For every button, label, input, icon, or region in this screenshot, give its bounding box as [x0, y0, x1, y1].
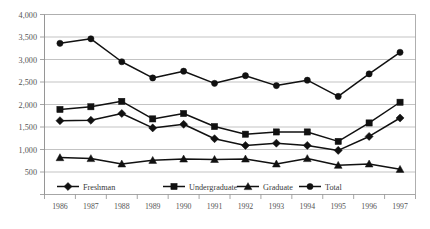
- data-point-total-1996: [366, 71, 372, 77]
- data-point-total-1990: [181, 68, 187, 74]
- legend-marker-circle: [307, 183, 313, 189]
- x-tick-label: 1995: [330, 202, 346, 211]
- y-tick-label: 1,500: [19, 123, 37, 132]
- data-point-undergraduate-1994: [304, 129, 310, 135]
- data-point-total-1997: [397, 49, 403, 55]
- data-point-undergraduate-1987: [88, 104, 94, 110]
- data-point-total-1993: [273, 83, 279, 89]
- chart-canvas: 5001,0001,5002,0002,5003,0003,5004,000 1…: [0, 0, 430, 229]
- series-total: [57, 36, 403, 100]
- x-tick-label: 1996: [361, 202, 377, 211]
- y-tick-label: 2,500: [19, 78, 37, 87]
- series-line-total: [60, 39, 400, 97]
- data-point-freshman-1988: [118, 109, 126, 117]
- series-line-freshman: [60, 114, 400, 151]
- x-axis-tick-labels: 1986198719881989199019911992199319941995…: [52, 202, 408, 211]
- x-tick-label: 1997: [392, 202, 408, 211]
- data-point-total-1995: [335, 93, 341, 99]
- data-point-total-1994: [304, 77, 310, 83]
- series-line-undergraduate: [60, 101, 400, 141]
- data-point-undergraduate-1988: [119, 98, 125, 104]
- chart-legend: FreshmanUndergraduateGraduateTotal: [57, 182, 342, 191]
- y-tick-label: 1,000: [19, 146, 37, 155]
- y-tick-label: 4,000: [19, 11, 37, 20]
- legend-item-undergraduate[interactable]: Undergraduate: [163, 183, 238, 192]
- data-point-total-1992: [242, 73, 248, 79]
- y-tick-label: 2,000: [19, 101, 37, 110]
- data-point-freshman-1992: [241, 141, 249, 149]
- data-point-undergraduate-1990: [181, 110, 187, 116]
- data-point-freshman-1997: [396, 114, 404, 122]
- x-tick-label: 1990: [176, 202, 192, 211]
- legend-label-graduate: Graduate: [263, 183, 293, 192]
- y-tick-label: 3,500: [19, 33, 37, 42]
- data-point-undergraduate-1991: [211, 123, 217, 129]
- legend-label-total: Total: [325, 183, 342, 192]
- data-point-freshman-1994: [303, 141, 311, 149]
- series-line-graduate: [60, 158, 400, 170]
- data-point-total-1991: [211, 80, 217, 86]
- x-axis-line: [45, 195, 416, 200]
- x-tick-label: 1992: [238, 202, 254, 211]
- data-point-total-1986: [57, 40, 63, 46]
- legend-item-freshman[interactable]: Freshman: [57, 182, 115, 191]
- data-point-total-1987: [88, 36, 94, 42]
- line-chart: 5001,0001,5002,0002,5003,0003,5004,000 1…: [0, 0, 430, 229]
- data-point-undergraduate-1995: [335, 138, 341, 144]
- data-point-undergraduate-1996: [366, 120, 372, 126]
- x-tick-label: 1988: [114, 202, 130, 211]
- legend-item-graduate[interactable]: Graduate: [237, 183, 293, 192]
- y-axis-ticks: [40, 15, 45, 195]
- x-tick-label: 1994: [299, 202, 315, 211]
- series-group: [56, 36, 404, 173]
- data-point-freshman-1996: [365, 132, 373, 140]
- y-tick-label: 3,000: [19, 56, 37, 65]
- y-axis-tick-labels: 5001,0001,5002,0002,5003,0003,5004,000: [19, 11, 37, 178]
- data-point-total-1988: [119, 59, 125, 65]
- data-point-undergraduate-1992: [242, 131, 248, 137]
- x-tick-label: 1993: [269, 202, 285, 211]
- legend-marker-square: [171, 183, 177, 189]
- data-point-total-1989: [150, 75, 156, 81]
- series-undergraduate: [57, 98, 403, 144]
- x-tick-label: 1986: [52, 202, 68, 211]
- legend-label-freshman: Freshman: [83, 183, 115, 192]
- data-point-undergraduate-1989: [150, 116, 156, 122]
- data-point-graduate-1994: [303, 155, 311, 162]
- legend-marker-diamond: [64, 182, 72, 190]
- data-point-undergraduate-1993: [273, 129, 279, 135]
- data-point-freshman-1991: [211, 135, 219, 143]
- legend-label-undergraduate: Undergraduate: [189, 183, 238, 192]
- data-point-freshman-1995: [334, 146, 342, 154]
- data-point-freshman-1987: [87, 116, 95, 124]
- series-graduate: [56, 154, 404, 173]
- data-point-freshman-1989: [149, 124, 157, 132]
- x-tick-label: 1987: [83, 202, 99, 211]
- y-tick-label: 500: [25, 168, 37, 177]
- data-point-undergraduate-1997: [397, 99, 403, 105]
- data-point-freshman-1993: [272, 139, 280, 147]
- series-freshman: [56, 109, 404, 154]
- legend-item-total[interactable]: Total: [299, 183, 342, 192]
- data-point-freshman-1986: [56, 117, 64, 125]
- x-tick-label: 1989: [145, 202, 161, 211]
- x-tick-label: 1991: [207, 202, 223, 211]
- data-point-undergraduate-1986: [57, 106, 63, 112]
